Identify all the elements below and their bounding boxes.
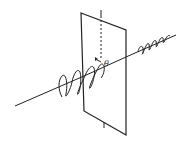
incoming-ray: [15, 76, 84, 106]
angle-label: θ: [104, 59, 109, 68]
incoming-wave-helix: [59, 64, 104, 97]
polarization-diagram: θ: [0, 0, 188, 147]
